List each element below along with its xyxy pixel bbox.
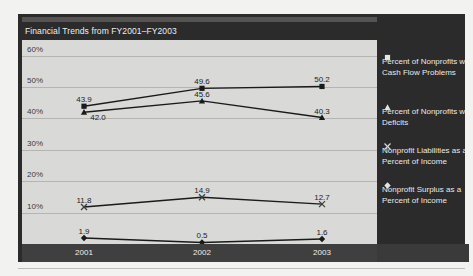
- diamond-marker: [383, 176, 392, 185]
- x-tick-label: 2003: [302, 248, 342, 258]
- data-point-label: 49.6: [194, 77, 210, 86]
- data-point-label: 1.6: [316, 228, 327, 237]
- x-marker: [383, 137, 392, 146]
- data-point-label: 45.6: [194, 90, 210, 99]
- x-axis-band: 200120022003: [22, 244, 469, 262]
- x-tick-label: 2002: [182, 248, 222, 258]
- page-background: Financial Trends from FY2001–FY2003 60%5…: [0, 0, 473, 276]
- data-point-label: 14.9: [194, 186, 210, 195]
- panel-accent-bar: [22, 17, 377, 22]
- series-lines-and-markers: [22, 40, 377, 244]
- x-tick-label: 2001: [64, 248, 104, 258]
- plot-area: 60%50%40%30%20%10% 43.949.650.242.045.64…: [22, 40, 377, 244]
- data-point-label: 43.9: [76, 95, 92, 104]
- data-point-label: 42.0: [90, 113, 106, 122]
- legend-item-label: Percent of Nonprofits with Deficits: [382, 107, 465, 128]
- bottom-divider: [18, 268, 465, 269]
- data-point-label: 50.2: [314, 75, 330, 84]
- chart-panel: Financial Trends from FY2001–FY2003 60%5…: [18, 14, 465, 262]
- chart-title: Financial Trends from FY2001–FY2003: [25, 25, 375, 38]
- square-marker: [383, 48, 392, 57]
- data-point-label: 40.3: [314, 107, 330, 116]
- data-point-label: 11.8: [77, 196, 92, 205]
- square-marker: [81, 104, 86, 109]
- chart-legend: Percent of Nonprofits with Cash Flow Pro…: [382, 40, 465, 244]
- data-point-label: 1.9: [78, 227, 89, 236]
- legend-item-label: Nonprofit Liabilities as a Percent of In…: [382, 146, 465, 167]
- triangle-marker: [383, 98, 392, 107]
- square-marker: [319, 84, 324, 89]
- legend-item-label: Percent of Nonprofits with Cash Flow Pro…: [382, 57, 465, 78]
- legend-item-label: Nonprofit Surplus as a Percent of Income: [382, 185, 465, 206]
- data-point-label: 0.5: [196, 231, 207, 240]
- data-point-label: 12.7: [314, 193, 330, 202]
